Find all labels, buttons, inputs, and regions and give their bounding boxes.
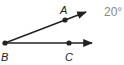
angle-measure: 20°: [104, 5, 122, 19]
point-a: [62, 17, 67, 22]
label-a: A: [59, 4, 67, 16]
label-c: C: [65, 51, 73, 63]
label-b: B: [1, 51, 8, 63]
ray-ba: [5, 12, 86, 43]
point-b: [2, 40, 7, 45]
point-c: [66, 40, 71, 45]
angle-diagram: A B C 20°: [0, 0, 124, 65]
